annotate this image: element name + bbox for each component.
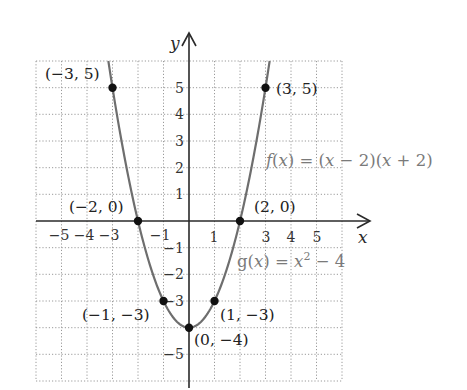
x-tick: −5 — [49, 227, 70, 243]
y-tick: −1 — [163, 240, 184, 256]
g-function-label: g(x) = x2 − 4 — [237, 250, 345, 271]
y-tick: −2 — [163, 266, 184, 282]
point-label: (−1, −3) — [82, 306, 150, 324]
point-label: (−2, 0) — [69, 198, 124, 216]
y-tick: −5 — [163, 346, 184, 362]
point-label: (3, 5) — [276, 80, 318, 98]
point-label: (1, −3) — [220, 306, 275, 324]
y-tick: 5 — [175, 80, 184, 96]
x-axis-label: x — [358, 227, 368, 247]
point-m2-0 — [134, 217, 142, 225]
y-tick: 3 — [175, 133, 184, 149]
point-label: (2, 0) — [254, 198, 296, 216]
point-0-m4 — [185, 324, 193, 332]
point-label: (0, −4) — [194, 331, 249, 349]
y-tick: 4 — [175, 106, 184, 122]
f-function-label: f(x) = (x − 2)(x + 2) — [264, 151, 433, 170]
x-tick: 5 — [313, 229, 322, 245]
x-tick: −4 — [74, 227, 95, 243]
y-axis-label: y — [169, 33, 180, 53]
x-tick: 3 — [262, 229, 271, 245]
x-tick: −3 — [99, 227, 120, 243]
y-tick: 2 — [175, 160, 184, 176]
point-3-5 — [261, 84, 269, 92]
point-m1-m3 — [159, 297, 167, 305]
point-1-m3 — [210, 297, 218, 305]
point-m3-5 — [108, 84, 116, 92]
point-2-0 — [236, 217, 244, 225]
function-graph: y x −5 −4 −3 −1 1 3 4 5 5 4 3 2 1 −1 −2 … — [0, 0, 467, 390]
x-tick-labels: −5 −4 −3 −1 1 3 4 5 — [49, 227, 322, 245]
x-tick: 4 — [287, 229, 296, 245]
y-tick: 1 — [175, 186, 184, 202]
x-tick: 1 — [210, 229, 219, 245]
point-label: (−3, 5) — [45, 65, 100, 83]
